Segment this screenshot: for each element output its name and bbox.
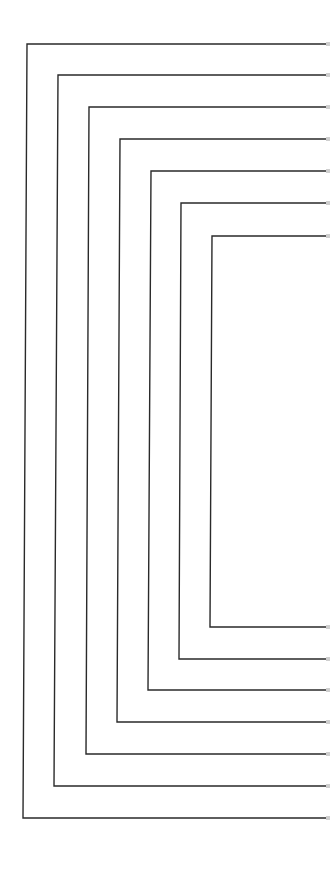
edge-mark-6-top [326, 201, 330, 205]
edge-mark-5-bottom [326, 688, 330, 692]
bracket-line-6 [179, 203, 326, 659]
edge-mark-4-bottom [326, 720, 330, 724]
bracket-line-5 [148, 171, 326, 690]
edge-mark-5-top [326, 169, 330, 173]
edge-mark-6-bottom [326, 657, 330, 661]
bracket-line-1 [23, 44, 326, 818]
edge-mark-1-top [326, 42, 330, 46]
edge-mark-2-top [326, 73, 330, 77]
edge-mark-4-top [326, 137, 330, 141]
edge-mark-7-bottom [326, 625, 330, 629]
edge-mark-3-bottom [326, 752, 330, 756]
edge-mark-3-top [326, 105, 330, 109]
edge-mark-7-top [326, 234, 330, 238]
edge-mark-1-bottom [326, 816, 330, 820]
bracket-line-3 [86, 107, 326, 754]
bracket-line-7 [210, 236, 326, 627]
edge-mark-2-bottom [326, 784, 330, 788]
bracket-line-2 [54, 75, 326, 786]
nested-brackets-diagram [0, 0, 330, 873]
